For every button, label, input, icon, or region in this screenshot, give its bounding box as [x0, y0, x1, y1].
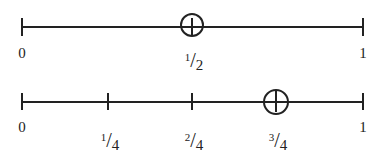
label-two-quarters: 2/4: [185, 130, 204, 153]
label-three-quarters: 3/4: [269, 130, 288, 153]
label-0: 0: [18, 120, 26, 135]
label-one-half: 1/2: [185, 50, 204, 73]
label-one-quarter: 1/4: [101, 130, 120, 153]
label-1: 1: [359, 46, 367, 61]
label-0: 0: [18, 46, 26, 61]
label-1: 1: [359, 120, 367, 135]
